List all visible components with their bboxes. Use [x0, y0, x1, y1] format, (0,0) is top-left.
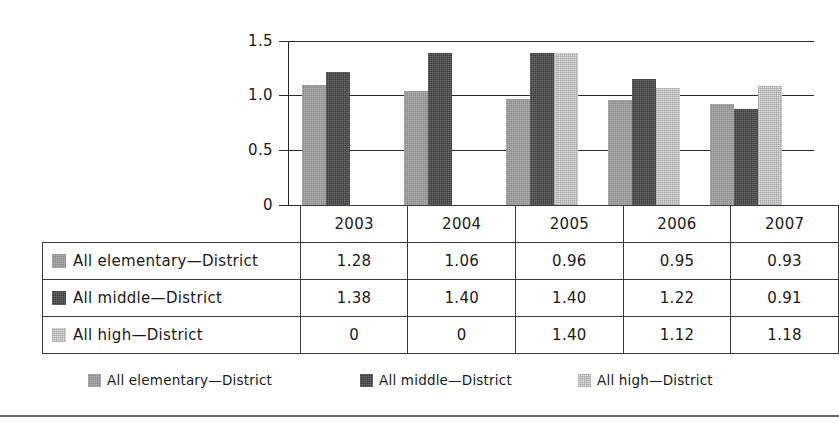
bar-middle-2003 [326, 72, 350, 205]
table-row-label-text: All middle—District [73, 289, 222, 307]
chart-data-table: 2003 2004 2005 2006 2007 All elementary—… [42, 205, 839, 354]
bar-high-2005 [554, 53, 578, 205]
table-cell-middle-2004: 1.40 [408, 280, 516, 317]
table-row-label-high: All high—District [43, 317, 301, 354]
bar-middle-2004 [428, 53, 452, 205]
legend-item-elementary: All elementary—District [88, 372, 272, 388]
table-cell-elementary-2004: 1.06 [408, 243, 516, 280]
table-row: All middle—District 1.38 1.40 1.40 1.22 … [43, 280, 839, 317]
y-tick-label-1-5: 1.5 [227, 32, 273, 50]
legend-swatch-middle-icon [360, 374, 373, 387]
legend-swatch-high-icon [578, 374, 591, 387]
y-tick-mark-1-0 [279, 95, 288, 96]
bar-middle-2007 [734, 109, 758, 205]
bar-high-2006 [656, 88, 680, 205]
bar-high-2007 [758, 86, 782, 205]
y-tick-mark-0-5 [279, 150, 288, 151]
table-header-2005: 2005 [516, 206, 624, 243]
chart-figure: 1.5 1.0 0.5 0 [0, 0, 839, 428]
bar-group-2003 [296, 41, 396, 205]
table-cell-middle-2005: 1.40 [516, 280, 624, 317]
table-row-label-middle: All middle—District [43, 280, 301, 317]
y-tick-label-1-0: 1.0 [227, 86, 273, 104]
legend-item-high: All high—District [578, 372, 713, 388]
bar-middle-2005 [530, 53, 554, 205]
table-header-spacer [43, 206, 301, 243]
table-cell-high-2005: 1.40 [516, 317, 624, 354]
legend-swatch-elementary-icon [88, 374, 101, 387]
bar-elementary-2004 [404, 91, 428, 205]
plot-area [288, 41, 800, 205]
table-row-label-elementary: All elementary—District [43, 243, 301, 280]
legend-label-middle: All middle—District [379, 372, 512, 388]
table-cell-middle-2006: 1.22 [623, 280, 731, 317]
bar-group-2006 [602, 41, 702, 205]
table-header-2003: 2003 [300, 206, 408, 243]
table-row: All elementary—District 1.28 1.06 0.96 0… [43, 243, 839, 280]
bar-middle-2006 [632, 79, 656, 205]
chart-legend: All elementary—District All middle—Distr… [88, 372, 788, 392]
table-cell-elementary-2006: 0.95 [623, 243, 731, 280]
bottom-divider [0, 415, 839, 417]
bar-elementary-2006 [608, 100, 632, 205]
legend-item-middle: All middle—District [360, 372, 512, 388]
bar-group-2007 [704, 41, 804, 205]
table-header-2006: 2006 [623, 206, 731, 243]
table-header-2007: 2007 [731, 206, 839, 243]
y-tick-mark-1-5 [279, 41, 288, 42]
table-cell-middle-2007: 0.91 [731, 280, 839, 317]
series-swatch-elementary-icon [52, 254, 66, 268]
table-header-2004: 2004 [408, 206, 516, 243]
table-cell-high-2007: 1.18 [731, 317, 839, 354]
table-cell-high-2006: 1.12 [623, 317, 731, 354]
table-cell-middle-2003: 1.38 [300, 280, 408, 317]
legend-label-high: All high—District [597, 372, 713, 388]
table-cell-high-2003: 0 [300, 317, 408, 354]
bar-elementary-2003 [302, 85, 326, 205]
series-swatch-high-icon [52, 328, 66, 342]
bar-elementary-2007 [710, 104, 734, 205]
table-cell-elementary-2007: 0.93 [731, 243, 839, 280]
table-cell-elementary-2005: 0.96 [516, 243, 624, 280]
bar-group-2004 [398, 41, 498, 205]
legend-label-elementary: All elementary—District [107, 372, 272, 388]
table-header-row: 2003 2004 2005 2006 2007 [43, 206, 839, 243]
table-cell-elementary-2003: 1.28 [300, 243, 408, 280]
table-row-label-text: All high—District [73, 326, 203, 344]
series-swatch-middle-icon [52, 291, 66, 305]
table-cell-high-2004: 0 [408, 317, 516, 354]
table-row: All high—District 0 0 1.40 1.12 1.18 [43, 317, 839, 354]
y-tick-label-0-5: 0.5 [227, 141, 273, 159]
bar-group-2005 [500, 41, 600, 205]
table-row-label-text: All elementary—District [73, 252, 258, 270]
bar-elementary-2005 [506, 99, 530, 205]
